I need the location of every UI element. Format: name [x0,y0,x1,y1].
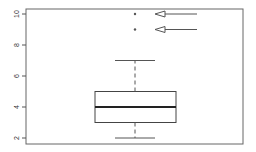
box-plot [95,61,176,139]
arrow-icon [155,11,197,17]
arrow-head [155,11,165,17]
annotation-arrows [155,11,197,33]
y-tick-label: 4 [13,105,20,109]
y-tick-label: 2 [13,136,20,140]
y-tick-label: 10 [13,10,20,18]
outlier-point [134,13,136,15]
arrow-head [155,27,165,33]
y-axis: 246810 [13,10,26,140]
y-tick-label: 6 [13,74,20,78]
box-plot-chart: 246810 [0,0,256,152]
outlier-points [134,13,136,31]
outlier-point [134,28,136,30]
arrow-icon [155,27,197,33]
y-tick-label: 8 [13,43,20,47]
